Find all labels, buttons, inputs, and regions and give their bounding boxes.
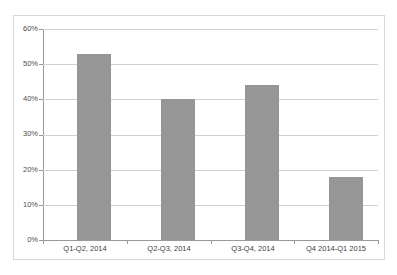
- y-axis-tick-label: 20%: [14, 166, 38, 174]
- x-axis-tick-label: Q1-Q2, 2014: [43, 244, 127, 254]
- bar-q3-q4-2014[interactable]: [245, 85, 279, 240]
- plot-area: [43, 29, 378, 240]
- y-axis-tick-label: 50%: [14, 60, 38, 68]
- category-axis-labels: Q1-Q2, 2014 Q2-Q3, 2014 Q3-Q4, 2014 Q4 2…: [43, 244, 378, 260]
- y-axis-tick-label: 40%: [14, 95, 38, 103]
- bar-q1-q2-2014[interactable]: [77, 54, 111, 240]
- chart-figure: 60% 50% 40% 30% 20% 10% 0% Q1-Q2, 2014 Q…: [13, 15, 385, 260]
- y-axis-tick-label: 30%: [14, 130, 38, 138]
- y-axis-tick-label: 0%: [14, 236, 38, 244]
- value-axis-labels: 60% 50% 40% 30% 20% 10% 0%: [14, 16, 38, 261]
- bar-q2-q3-2014[interactable]: [161, 99, 195, 240]
- x-axis-tick-label: Q3-Q4, 2014: [211, 244, 295, 254]
- y-axis-tick-label: 60%: [14, 25, 38, 33]
- category-axis-tick-mark: [378, 240, 379, 244]
- y-axis-tick-label: 10%: [14, 201, 38, 209]
- bar-q4-2014-q1-2015[interactable]: [329, 177, 363, 240]
- x-axis-tick-label: Q2-Q3, 2014: [127, 244, 211, 254]
- gridline-60: [43, 29, 378, 30]
- x-axis-tick-label: Q4 2014-Q1 2015: [294, 244, 378, 254]
